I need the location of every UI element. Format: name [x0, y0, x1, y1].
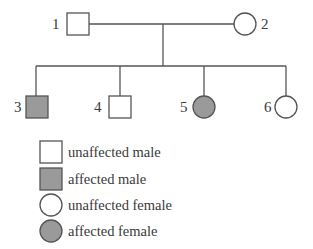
individual-3: 3 — [14, 96, 48, 118]
legend-item-unaffected-female: unaffected female — [40, 194, 172, 216]
individual-2: 2 — [234, 13, 269, 35]
legend: unaffected male affected male unaffected… — [40, 141, 172, 242]
individual-label-2: 2 — [261, 16, 269, 32]
legend-item-affected-male: affected male — [40, 168, 146, 190]
legend-label: affected male — [68, 171, 146, 187]
unaffected-male-square-icon — [40, 141, 62, 163]
legend-item-affected-female: affected female — [40, 220, 158, 242]
pedigree-diagram: 1 2 3 4 5 6 unaffected male affected mal… — [0, 0, 313, 249]
individual-1: 1 — [52, 13, 89, 35]
individual-4: 4 — [94, 96, 131, 118]
individual-label-1: 1 — [52, 16, 60, 32]
legend-label: unaffected female — [68, 197, 172, 213]
individual-label-3: 3 — [14, 99, 22, 115]
legend-label: affected female — [68, 223, 158, 239]
legend-item-unaffected-male: unaffected male — [40, 141, 161, 163]
individual-5: 5 — [180, 96, 215, 118]
unaffected-female-circle-icon — [40, 194, 62, 216]
unaffected-female-circle-icon — [234, 13, 256, 35]
affected-female-circle-icon — [40, 220, 62, 242]
affected-male-square-icon — [40, 168, 62, 190]
legend-label: unaffected male — [68, 144, 161, 160]
unaffected-male-square-icon — [67, 13, 89, 35]
unaffected-female-circle-icon — [275, 96, 297, 118]
individual-6: 6 — [264, 96, 297, 118]
individual-label-6: 6 — [264, 99, 272, 115]
affected-female-circle-icon — [193, 96, 215, 118]
individual-label-5: 5 — [180, 99, 188, 115]
affected-male-square-icon — [26, 96, 48, 118]
individual-label-4: 4 — [94, 99, 102, 115]
unaffected-male-square-icon — [109, 96, 131, 118]
